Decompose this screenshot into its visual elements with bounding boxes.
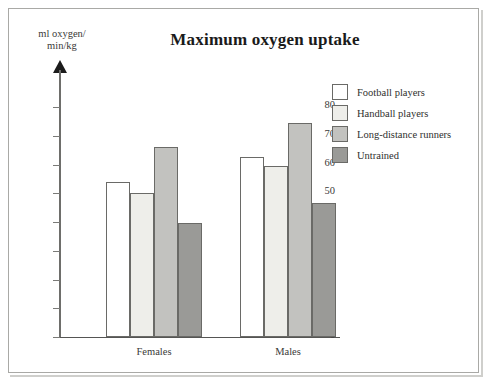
chart-legend: Football playersHandball playersLong-dis… — [332, 82, 478, 166]
y-axis-tick — [53, 193, 60, 194]
legend-item: Long-distance runners — [332, 124, 478, 144]
chart-title: Maximum oxygen uptake — [120, 30, 410, 50]
y-axis-tick — [53, 280, 60, 281]
legend-label: Handball players — [357, 108, 428, 119]
x-axis-group-label: Females — [114, 346, 194, 357]
figure-root: Maximum oxygen uptake ml oxygen/ min/kg … — [0, 0, 491, 388]
bar — [264, 166, 288, 337]
y-axis-tick — [53, 222, 60, 223]
legend-swatch — [332, 84, 348, 100]
y-axis-tick — [53, 308, 60, 309]
bar — [240, 157, 264, 337]
legend-swatch — [332, 105, 348, 121]
y-axis-tick — [53, 165, 60, 166]
bar — [130, 193, 154, 337]
y-axis-label: ml oxygen/ min/kg — [16, 28, 108, 52]
y-axis-tick — [53, 136, 60, 137]
y-axis-label-line2: min/kg — [16, 40, 108, 52]
legend-label: Untrained — [357, 150, 399, 161]
y-axis-label-line1: ml oxygen/ — [38, 28, 86, 39]
legend-label: Long-distance runners — [357, 129, 451, 140]
y-axis-tick — [53, 107, 60, 108]
legend-item: Untrained — [332, 145, 478, 165]
y-axis-tick — [53, 251, 60, 252]
y-axis-tick-label: 80 — [301, 99, 335, 110]
legend-swatch — [332, 126, 348, 142]
bar — [312, 203, 336, 337]
x-axis-group-label: Males — [248, 346, 328, 357]
plot-area: 01020304050607080 — [60, 107, 345, 337]
legend-swatch — [332, 147, 348, 163]
legend-label: Football players — [357, 87, 425, 98]
bar — [154, 147, 178, 337]
legend-item: Handball players — [332, 103, 478, 123]
bar — [178, 223, 202, 337]
x-axis-line — [60, 337, 340, 338]
bar — [106, 182, 130, 337]
y-axis-tick — [53, 337, 60, 338]
bar — [288, 123, 312, 337]
legend-item: Football players — [332, 82, 478, 102]
